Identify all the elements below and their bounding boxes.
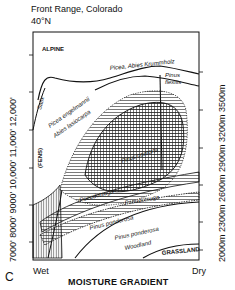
riparian-zone [33,185,62,258]
svg-text:Pinus ponderosa: Pinus ponderosa [114,226,160,241]
svg-text:(FENS): (FENS) [37,148,43,168]
x-axis-dry-label: Dry [192,266,206,276]
vegetation-zonation-diagram: ALPINE Picea, Abies Krummholz Pinus flex… [0,0,235,290]
label-krummholz: Picea, Abies Krummholz [109,58,174,71]
x-axis-wet-label: Wet [33,266,49,276]
svg-text:Pinus: Pinus [165,72,180,78]
svg-text:Salix: Salix [36,95,45,110]
svg-text:flexilis: flexilis [165,79,181,85]
svg-text:Woodland: Woodland [124,239,152,251]
panel-letter: C [5,270,14,284]
label-alpine: ALPINE [42,46,64,52]
x-axis-title: MOISTURE GRADIENT [68,277,168,287]
